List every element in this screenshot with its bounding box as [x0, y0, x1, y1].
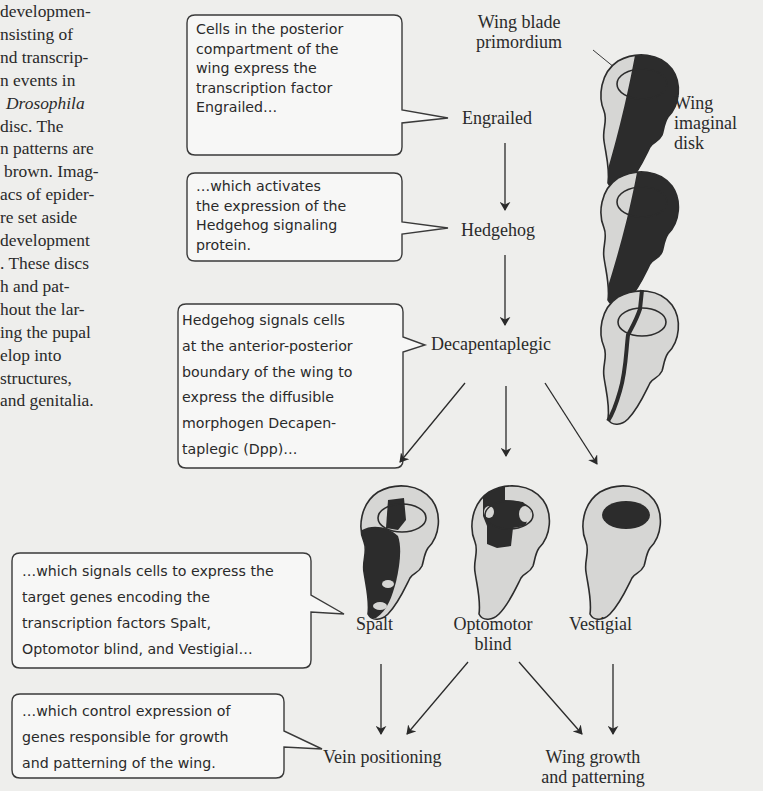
- callout-line: compartment of the: [196, 40, 343, 60]
- node-spalt: Spalt: [356, 614, 393, 634]
- annotation-wing-blade-line1: Wing blade: [476, 12, 562, 32]
- callout-line: the expression of the: [196, 197, 346, 217]
- node-decapentaplegic: Decapentaplegic: [431, 334, 551, 354]
- annotation-imaginal-line3: disk: [674, 133, 737, 153]
- wing-disc-decapentaplegic: [601, 290, 678, 424]
- callout-line: express the diffusible: [182, 385, 353, 411]
- callout-outcomes: …which control expression of genes respo…: [22, 698, 230, 776]
- callout-line: genes responsible for growth: [22, 724, 230, 750]
- callout-engrailed: Cells in the posterior compartment of th…: [196, 20, 343, 118]
- wing-disc-optomotor-blind: [472, 484, 549, 619]
- callout-line: Hedgehog signals cells: [182, 308, 353, 334]
- arrow-optomotor-to-vein: [407, 662, 468, 734]
- callout-line: and patterning of the wing.: [22, 750, 230, 776]
- node-hedgehog: Hedgehog: [461, 220, 535, 240]
- node-vestigial: Vestigial: [569, 614, 632, 634]
- annotation-wing-blade-primordium: Wing blade primordium: [476, 12, 562, 52]
- callout-line: target genes encoding the: [22, 584, 274, 610]
- annotation-imaginal-line1: Wing: [674, 93, 737, 113]
- callout-line: Hedgehog signaling: [196, 216, 346, 236]
- callout-line: transcription factors Spalt,: [22, 610, 274, 636]
- callout-line: at the anterior-posterior: [182, 334, 353, 360]
- diagram-graphics: [0, 0, 763, 791]
- annotation-wing-blade-line2: primordium: [476, 32, 562, 52]
- wing-disc-spalt: [361, 486, 438, 619]
- callout-dpp: Hedgehog signals cells at the anterior-p…: [182, 308, 353, 463]
- callout-line: Cells in the posterior: [196, 20, 343, 40]
- node-wing-growth-line2: and patterning: [528, 767, 658, 787]
- node-wing-growth-line1: Wing growth: [528, 747, 658, 767]
- node-optomotor-blind: Optomotor blind: [441, 614, 545, 654]
- wing-disc-vestigial: [583, 486, 660, 619]
- callout-line: …which signals cells to express the: [22, 558, 274, 584]
- node-vein-positioning: Vein positioning: [323, 747, 442, 767]
- callout-line: morphogen Decapen-: [182, 411, 353, 437]
- callout-line: wing express the: [196, 59, 343, 79]
- callout-hedgehog: …which activates the expression of the H…: [196, 177, 346, 255]
- node-engrailed: Engrailed: [462, 108, 532, 128]
- node-optomotor-line2: blind: [441, 634, 545, 654]
- node-optomotor-line1: Optomotor: [441, 614, 545, 634]
- callout-line: …which control expression of: [22, 698, 230, 724]
- callout-targets: …which signals cells to express the targ…: [22, 558, 274, 662]
- callout-line: Optomotor blind, and Vestigial…: [22, 636, 274, 662]
- callout-line: protein.: [196, 236, 346, 256]
- arrow-dpp-to-spalt: [400, 383, 465, 462]
- callout-line: …which activates: [196, 177, 346, 197]
- callout-line: transcription factor: [196, 79, 343, 99]
- node-wing-growth: Wing growth and patterning: [528, 747, 658, 787]
- arrow-optomotor-to-wing-growth: [519, 662, 582, 734]
- callout-line: Engrailed…: [196, 98, 343, 118]
- annotation-imaginal-line2: imaginal: [674, 113, 737, 133]
- callout-line: taplegic (Dpp)…: [182, 437, 353, 463]
- arrow-dpp-to-vestigial: [545, 383, 597, 464]
- annotation-wing-imaginal-disk: Wing imaginal disk: [674, 93, 737, 153]
- callout-line: boundary of the wing to: [182, 360, 353, 386]
